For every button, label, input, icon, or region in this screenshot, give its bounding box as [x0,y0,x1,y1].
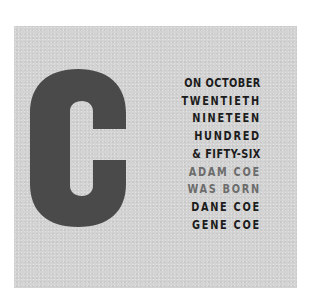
big-letter-c [30,69,127,228]
text-line-fifty-six: & FIFTY-SIX [182,145,261,163]
text-line-on-october: ON OCTOBER [182,74,261,92]
text-line-nineteen: NINETEEN [182,109,261,127]
text-line-was-born: WAS BORN [182,180,261,198]
announcement-card: ON OCTOBER TWENTIETH NINETEEN HUNDRED & … [14,26,297,288]
text-line-gene-coe: GENE COE [182,216,261,234]
text-line-adam-coe: ADAM COE [182,163,261,181]
birth-announcement-text: ON OCTOBER TWENTIETH NINETEEN HUNDRED & … [182,74,261,233]
text-line-twentieth: TWENTIETH [182,92,261,110]
text-line-dane-coe: DANE COE [182,198,261,216]
letter-c-glyph [30,69,127,228]
text-line-hundred: HUNDRED [182,127,261,145]
